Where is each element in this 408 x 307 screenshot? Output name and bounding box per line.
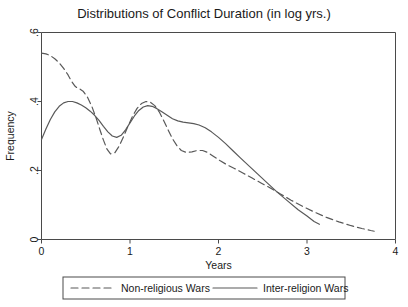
chart-title: Distributions of Conflict Duration (in l…: [77, 6, 331, 21]
x-tick-label: 3: [304, 245, 310, 257]
y-axis-ticks: 0.2.4.6: [28, 28, 42, 242]
legend-label-inter-religion-wars: Inter-religion Wars: [263, 282, 348, 294]
y-tick-label: .4: [28, 97, 40, 106]
series-lines: [42, 53, 375, 231]
x-axis-ticks: 01234: [39, 240, 399, 257]
x-tick-label: 2: [216, 245, 222, 257]
x-tick-label: 4: [393, 245, 399, 257]
y-tick-label: .6: [28, 28, 40, 37]
y-tick-label: 0: [28, 236, 40, 242]
series-line-inter-religion-wars: [42, 102, 320, 225]
axes-frame: [42, 33, 396, 240]
chart-legend: Non-religious Wars Inter-religion Wars: [63, 277, 348, 299]
plot-frame: [42, 33, 396, 240]
y-tick-label: .2: [28, 166, 40, 175]
distribution-line-chart: Distributions of Conflict Duration (in l…: [0, 0, 408, 307]
x-axis-label: Years: [205, 259, 231, 271]
x-tick-label: 1: [127, 245, 133, 257]
y-axis-label: Frequency: [4, 110, 16, 160]
x-tick-label: 0: [39, 245, 45, 257]
series-line-non-religious-wars: [42, 53, 375, 231]
chart-figure: Distributions of Conflict Duration (in l…: [0, 0, 408, 307]
legend-label-non-religious-wars: Non-religious Wars: [121, 282, 210, 294]
